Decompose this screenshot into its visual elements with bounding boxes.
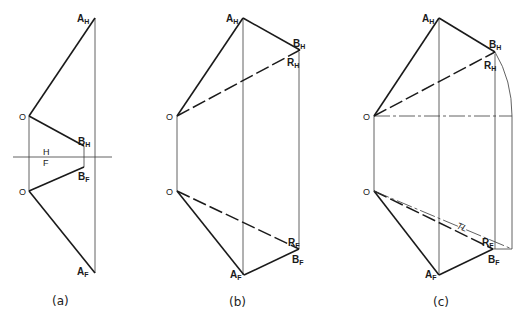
caption-c: (c) [433,295,449,309]
label-b-f: BF [292,254,304,266]
line-o-rh-dashed [374,52,495,116]
label-a-h: AH [226,13,238,25]
line-af-bf [439,249,493,275]
line-o-rh-dashed [177,50,300,116]
revolution-arc [495,52,512,116]
label-o-bottom: O [166,187,173,197]
line-o-af [29,191,95,273]
line-o-ah [374,18,439,116]
label-r-h: RH [484,60,496,72]
label-b-h: BH [78,136,90,148]
label-o-bottom: O [363,187,370,197]
label-a-h: AH [422,13,434,25]
line-ah-bh [243,18,300,50]
descriptive-geometry-figure: AH O BH H F BF O AF (a) AH BH RH O O RF … [0,0,526,326]
caption-a: (a) [52,294,69,308]
label-r-f: RF [482,237,494,249]
label-b-h: BH [489,39,501,51]
label-a-f: AF [77,266,89,278]
line-o-bh [29,116,84,146]
line-o-ah [29,18,95,116]
label-b-f: BF [78,171,90,183]
true-length-line [374,191,512,249]
line-o-af [177,191,244,275]
label-a-h: AH [77,13,89,25]
label-o-top: O [19,112,26,122]
line-o-bf [29,167,84,191]
label-b-f: BF [488,254,500,266]
panel-b: AH BH RH O O RF BF AF (b) [166,13,305,309]
line-o-af [374,191,439,275]
label-r-f: RF [288,237,300,249]
line-o-rf-dashed [177,191,299,249]
panel-a: AH O BH H F BF O AF (a) [13,13,112,308]
label-o-top: O [363,112,370,122]
label-b-h: BH [293,38,305,50]
line-ah-bh [439,18,495,52]
label-o-top: O [166,112,173,122]
label-r-h: RH [287,57,299,69]
line-o-ah [177,18,243,116]
line-af-bf [244,249,299,275]
label-fold-h: H [43,147,50,157]
label-o-bottom: O [19,187,26,197]
line-o-rf-dashed [374,191,493,249]
label-fold-f: F [43,158,49,168]
caption-b: (b) [229,295,246,309]
panel-c: AH BH RH O O TL RF BF AF (c) [363,13,512,309]
